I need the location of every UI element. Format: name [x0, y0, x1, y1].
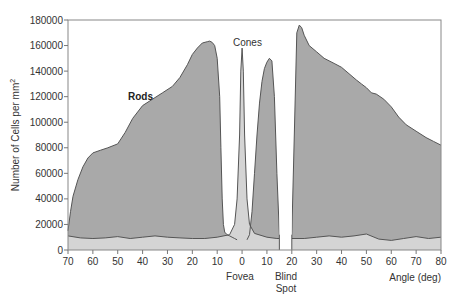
- x-tick-label: 0: [239, 256, 245, 267]
- x-tick-label: 50: [361, 256, 373, 267]
- x-tick-label: 30: [162, 256, 174, 267]
- y-axis-ticks: 0200004000060000800001000001200001400001…: [30, 15, 68, 256]
- y-tick-label: 60000: [35, 168, 63, 179]
- x-tick-label: 10: [261, 256, 273, 267]
- annotation-blind: Blind: [275, 271, 297, 282]
- annotation-fovea: Fovea: [226, 271, 254, 282]
- y-tick-label: 80000: [35, 142, 63, 153]
- y-tick-label: 180000: [30, 15, 64, 26]
- y-tick-label: 160000: [30, 40, 64, 51]
- annotation-cones: Cones: [233, 37, 262, 48]
- y-tick-label: 40000: [35, 193, 63, 204]
- y-tick-label: 100000: [30, 117, 64, 128]
- x-axis-label: Angle (deg): [389, 272, 441, 283]
- x-tick-label: 60: [87, 256, 99, 267]
- y-axis-label-main: Number of Cells per mm: [10, 83, 21, 191]
- y-tick-label: 140000: [30, 66, 64, 77]
- rods-area: [292, 25, 441, 250]
- rods-area: [247, 58, 279, 250]
- x-tick-label: 80: [435, 256, 447, 267]
- y-tick-label: 20000: [35, 219, 63, 230]
- plot-area: [68, 20, 441, 250]
- x-tick-label: 60: [386, 256, 398, 267]
- x-tick-label: 20: [187, 256, 199, 267]
- y-axis-label: Number of Cells per mm2: [9, 79, 21, 191]
- x-tick-label: 70: [62, 256, 74, 267]
- blind-spot-band: [279, 20, 291, 250]
- x-tick-label: 40: [137, 256, 149, 267]
- x-tick-label: 20: [286, 256, 298, 267]
- x-tick-label: 40: [336, 256, 348, 267]
- y-tick-label: 120000: [30, 91, 64, 102]
- annotation-spot: Spot: [276, 283, 297, 294]
- rods-area: [68, 41, 237, 250]
- x-axis-ticks: 7060504030201001020304050607080: [62, 250, 447, 267]
- y-axis-label-sup: 2: [9, 79, 16, 83]
- x-tick-label: 30: [311, 256, 323, 267]
- x-tick-label: 10: [212, 256, 224, 267]
- annotation-rods: Rods: [128, 91, 153, 102]
- retina-density-chart: 0200004000060000800001000001200001400001…: [0, 0, 465, 306]
- y-tick-label: 0: [57, 245, 63, 256]
- x-tick-label: 50: [112, 256, 124, 267]
- x-tick-label: 70: [411, 256, 423, 267]
